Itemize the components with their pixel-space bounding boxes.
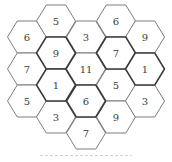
figure-caption xyxy=(40,153,132,159)
hex-number: 3 xyxy=(83,32,89,43)
hex-number: 9 xyxy=(142,32,148,43)
hexagon-grid: 6755331176599391671 xyxy=(0,0,172,162)
hex-number: 7 xyxy=(113,48,119,59)
hex-number: 6 xyxy=(24,32,30,43)
hex-number: 9 xyxy=(53,48,59,59)
hex-number: 3 xyxy=(53,112,59,123)
caption-text-illegible xyxy=(40,155,132,156)
hex-number: 5 xyxy=(113,80,119,91)
hex-number: 5 xyxy=(24,96,30,107)
hex-number: 11 xyxy=(80,64,93,75)
hex-number: 5 xyxy=(53,16,59,27)
hex-number: 6 xyxy=(83,96,89,107)
hex-number: 3 xyxy=(142,96,148,107)
hex-number: 7 xyxy=(83,128,89,139)
hex-number: 9 xyxy=(113,112,119,123)
hex-number: 7 xyxy=(24,64,30,75)
hex-number: 1 xyxy=(142,64,148,75)
hex-number: 1 xyxy=(53,80,59,91)
hex-number: 6 xyxy=(113,16,119,27)
